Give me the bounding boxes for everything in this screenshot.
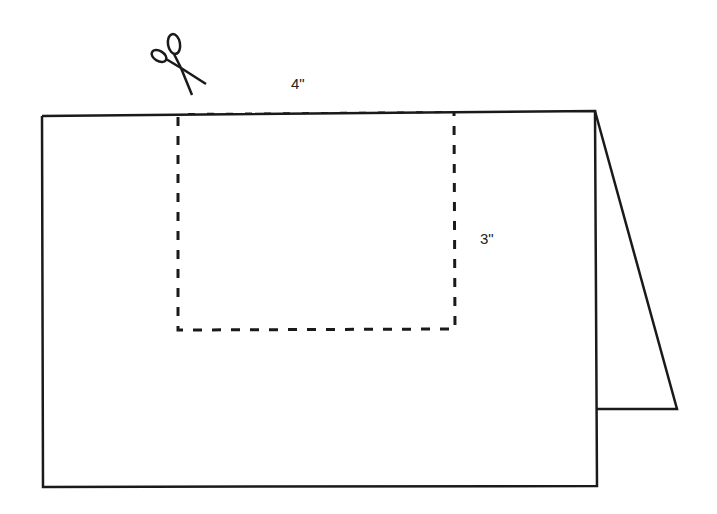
- card-back-panel: [595, 111, 677, 409]
- diagram-canvas: 4" 3": [0, 0, 717, 514]
- card-front-outline: [42, 111, 597, 487]
- height-label: 3": [480, 230, 494, 247]
- card-drawing: [0, 0, 717, 514]
- scissors-icon: [150, 33, 206, 95]
- cutout-dashed-outline: [178, 112, 455, 330]
- width-label: 4": [291, 75, 305, 92]
